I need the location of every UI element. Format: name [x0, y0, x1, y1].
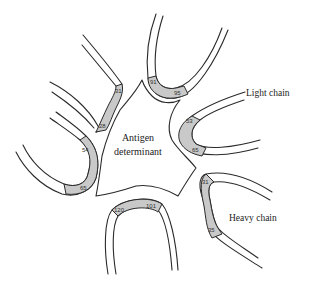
chain-left-mid: 54 65 [16, 112, 98, 195]
antigen-label-line2: determinant [114, 146, 162, 157]
light-chain-label: Light chain [246, 88, 290, 98]
chain-right-heavy: 31 35 Heavy chain [200, 173, 277, 268]
chain-top-left: 31 28 [50, 35, 123, 132]
residue-number: 65 [192, 147, 199, 153]
chain-bottom: 120 101 [105, 199, 178, 274]
residue-number: 101 [146, 203, 157, 209]
heavy-chain-label: Heavy chain [229, 213, 277, 223]
residue-number: 91 [150, 79, 157, 85]
residue-number: 95 [174, 90, 181, 96]
residue-number: 35 [208, 227, 215, 233]
residue-number: 28 [99, 123, 106, 129]
residue-number: 31 [202, 179, 209, 185]
residue-number: 54 [82, 147, 89, 153]
chain-right-light: 53 65 Light chain [179, 88, 290, 156]
residue-number: 65 [80, 185, 87, 191]
antigen-label-line1: Antigen [122, 132, 154, 143]
chain-top-center: 91 95 [147, 14, 228, 98]
residue-number: 120 [114, 207, 125, 213]
residue-number: 31 [115, 88, 122, 94]
residue-number: 53 [186, 118, 193, 124]
antibody-antigen-diagram: 31 28 91 95 53 65 Light chain 54 65 120 … [0, 0, 310, 288]
